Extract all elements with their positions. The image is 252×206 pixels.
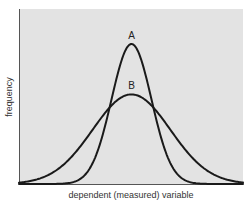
y-axis-label: frequency bbox=[4, 77, 14, 117]
curve-label-b: B bbox=[128, 80, 135, 91]
chart: A B dependent (measured) variable freque… bbox=[0, 0, 252, 206]
curve-label-a: A bbox=[128, 30, 135, 41]
x-axis-label: dependent (measured) variable bbox=[68, 190, 193, 200]
